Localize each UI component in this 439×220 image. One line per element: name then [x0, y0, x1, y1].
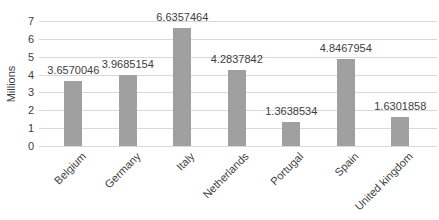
category-label: Belgium: [51, 150, 88, 187]
y-tick-label: 0: [4, 139, 34, 153]
bar: [337, 59, 355, 146]
category-label: Netherlands: [201, 150, 251, 200]
bar-value-label: 3.6570046: [47, 64, 99, 77]
y-tick-label: 3: [4, 85, 34, 99]
gridline: [39, 146, 437, 147]
category-label: United kingdom: [352, 150, 415, 213]
category-label: Spain: [332, 150, 360, 178]
gridline: [39, 21, 437, 22]
bar-value-label: 4.2837842: [211, 53, 263, 66]
category-label: Italy: [174, 150, 197, 173]
bar-value-label: 4.8467954: [320, 42, 372, 55]
y-tick-label: 2: [4, 103, 34, 117]
y-tick-label: 7: [4, 14, 34, 28]
bar-value-label: 1.3638534: [265, 105, 317, 118]
bar: [64, 81, 82, 146]
bar-value-label: 3.9685154: [102, 58, 154, 71]
bar-value-label: 6.6357464: [156, 11, 208, 24]
y-tick-label: 6: [4, 32, 34, 46]
y-tick-label: 4: [4, 68, 34, 82]
bar: [119, 75, 137, 146]
category-label: Germany: [102, 150, 142, 190]
bar-value-label: 1.6301858: [374, 100, 426, 113]
y-tick-label: 5: [4, 50, 34, 64]
y-tick-label: 1: [4, 121, 34, 135]
bar-chart: Millions 01234567 3.65700463.96851546.63…: [0, 0, 439, 220]
bar: [282, 122, 300, 146]
category-label: Portugal: [268, 150, 305, 187]
gridline: [39, 39, 437, 40]
bar: [391, 117, 409, 146]
bar: [173, 28, 191, 146]
bar: [228, 70, 246, 146]
